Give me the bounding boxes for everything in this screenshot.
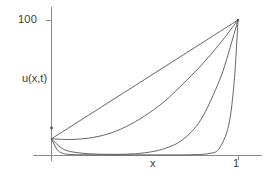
plot-canvas [0,0,273,183]
curve-t3 [52,20,239,154]
curve-t1 [52,20,239,139]
curve-t4 [52,20,239,155]
x-axis-tick-label-1: 1 [233,157,239,169]
y-axis-tick-label-100: 100 [18,13,37,25]
curve-group [52,20,239,155]
left-boundary-node [50,127,53,130]
right-boundary-node [237,19,239,21]
plot-figure: 100 u(x,t) x 1 [0,0,273,183]
y-axis-title: u(x,t) [22,72,47,84]
x-axis-title: x [150,157,156,169]
